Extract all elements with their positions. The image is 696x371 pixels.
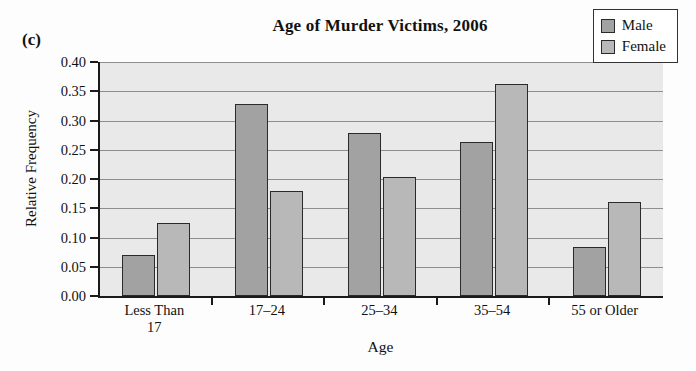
y-tick-mark (90, 149, 98, 151)
bar-female-0 (157, 223, 190, 296)
y-tick-label: 0.15 (61, 200, 86, 217)
legend-label: Male (622, 17, 653, 34)
y-tick-mark (90, 61, 98, 63)
bar-male-0 (122, 255, 155, 296)
y-tick-label: 0.25 (61, 141, 86, 158)
chart-title: Age of Murder Victims, 2006 (96, 16, 664, 36)
bar-male-2 (348, 133, 381, 296)
bar-female-3 (495, 84, 528, 296)
x-tick-label: 25–34 (323, 302, 436, 319)
bar-male-1 (235, 104, 268, 296)
y-tick-mark (90, 266, 98, 268)
legend: MaleFemale (593, 9, 678, 63)
bar-female-1 (270, 191, 303, 296)
y-tick-mark (90, 178, 98, 180)
y-tick-mark (90, 207, 98, 209)
x-tick-label: 35–54 (436, 302, 549, 319)
y-axis-title: Relative Frequency (23, 74, 40, 264)
figure: (c) Age of Murder Victims, 2006 Relative… (0, 0, 696, 371)
bars-layer (100, 62, 663, 296)
x-axis-title: Age (98, 338, 663, 356)
bar-female-2 (383, 177, 416, 296)
y-axis: Relative Frequency 0.000.050.100.150.200… (0, 62, 98, 298)
y-tick-mark (90, 90, 98, 92)
y-tick-label: 0.30 (61, 112, 86, 129)
x-tick-label: 55 or Older (548, 302, 661, 319)
legend-swatch-male-icon (601, 19, 615, 33)
x-tick-label: Less Than17 (98, 302, 211, 336)
legend-item-female: Female (601, 36, 666, 57)
y-tick-label: 0.40 (61, 54, 86, 71)
y-tick-label: 0.00 (61, 288, 86, 305)
legend-item-male: Male (601, 15, 666, 36)
bar-female-4 (608, 202, 641, 296)
y-tick-mark (90, 120, 98, 122)
x-tick-label: 17–24 (211, 302, 324, 319)
y-tick-label: 0.20 (61, 171, 86, 188)
y-tick-mark (90, 237, 98, 239)
y-tick-mark (90, 295, 98, 297)
bar-male-4 (573, 247, 606, 296)
panel-letter: (c) (22, 30, 41, 50)
y-tick-label: 0.05 (61, 258, 86, 275)
legend-label: Female (622, 38, 666, 55)
plot-area (98, 62, 663, 298)
bar-male-3 (460, 142, 493, 296)
legend-swatch-female-icon (601, 40, 615, 54)
y-tick-label: 0.10 (61, 229, 86, 246)
y-tick-label: 0.35 (61, 83, 86, 100)
